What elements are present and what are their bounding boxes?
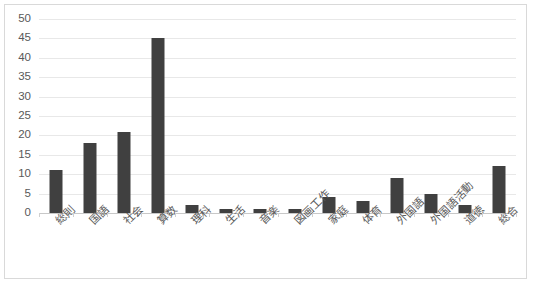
x-label-slot: 外国語 bbox=[380, 215, 414, 275]
bar-slot bbox=[209, 19, 243, 213]
x-label-slot: 総合 bbox=[482, 215, 516, 275]
bar-slot bbox=[141, 19, 175, 213]
x-label-slot: 体育 bbox=[346, 215, 380, 275]
x-tick-mark bbox=[312, 213, 313, 217]
x-tick-mark bbox=[346, 213, 347, 217]
x-tick-mark bbox=[380, 213, 381, 217]
bar-slot bbox=[107, 19, 141, 213]
x-axis-labels: 総則国語社会算数理科生活音楽図画工作家庭体育外国語外国語活動道徳総合 bbox=[39, 215, 516, 277]
bar[interactable] bbox=[492, 166, 505, 213]
bar[interactable] bbox=[390, 178, 403, 213]
bar[interactable] bbox=[84, 143, 97, 213]
x-tick-mark bbox=[482, 213, 483, 217]
x-label-slot: 算数 bbox=[141, 215, 175, 275]
x-label-slot: 総則 bbox=[39, 215, 73, 275]
bars-layer bbox=[39, 19, 516, 213]
x-tick-mark bbox=[516, 213, 517, 217]
x-label-slot: 国語 bbox=[73, 215, 107, 275]
x-tick-mark bbox=[209, 213, 210, 217]
x-tick-mark bbox=[141, 213, 142, 217]
y-tick-label-50: 50 bbox=[18, 13, 31, 25]
x-tick-mark bbox=[243, 213, 244, 217]
bar-slot bbox=[243, 19, 277, 213]
y-tick-label-15: 15 bbox=[18, 149, 31, 161]
x-label-slot: 図画工作 bbox=[278, 215, 312, 275]
chart-frame: 50454035302520151050 総則国語社会算数理科生活音楽図画工作家… bbox=[4, 4, 527, 279]
y-tick-label-35: 35 bbox=[18, 71, 31, 83]
x-label-slot: 理科 bbox=[175, 215, 209, 275]
bar[interactable] bbox=[152, 38, 165, 213]
x-tick-mark bbox=[175, 213, 176, 217]
x-label-slot: 音楽 bbox=[243, 215, 277, 275]
bar-slot bbox=[482, 19, 516, 213]
x-label-slot: 道徳 bbox=[448, 215, 482, 275]
y-tick-label-0: 0 bbox=[25, 207, 31, 219]
y-tick-label-40: 40 bbox=[18, 52, 31, 64]
y-tick-label-30: 30 bbox=[18, 91, 31, 103]
bar[interactable] bbox=[118, 132, 131, 213]
bar-slot bbox=[175, 19, 209, 213]
bar-slot bbox=[278, 19, 312, 213]
bar[interactable] bbox=[50, 170, 63, 213]
bar-slot bbox=[414, 19, 448, 213]
x-tick-mark bbox=[278, 213, 279, 217]
y-tick-label-5: 5 bbox=[25, 188, 31, 200]
bar-slot bbox=[380, 19, 414, 213]
x-label-slot: 生活 bbox=[209, 215, 243, 275]
bar-slot bbox=[346, 19, 380, 213]
y-tick-label-25: 25 bbox=[18, 110, 31, 122]
x-tick-mark bbox=[414, 213, 415, 217]
bar-slot bbox=[73, 19, 107, 213]
x-label-slot: 社会 bbox=[107, 215, 141, 275]
bar-slot bbox=[39, 19, 73, 213]
x-tick-mark bbox=[73, 213, 74, 217]
x-label-slot: 外国語活動 bbox=[414, 215, 448, 275]
x-tick-mark bbox=[448, 213, 449, 217]
plot-area bbox=[39, 19, 516, 213]
x-tick-mark bbox=[107, 213, 108, 217]
y-tick-label-45: 45 bbox=[18, 33, 31, 45]
y-tick-label-20: 20 bbox=[18, 130, 31, 142]
y-tick-label-10: 10 bbox=[18, 168, 31, 180]
x-label-slot: 家庭 bbox=[312, 215, 346, 275]
x-tick-mark bbox=[39, 213, 40, 217]
y-axis: 50454035302520151050 bbox=[5, 19, 35, 213]
bar-slot bbox=[312, 19, 346, 213]
